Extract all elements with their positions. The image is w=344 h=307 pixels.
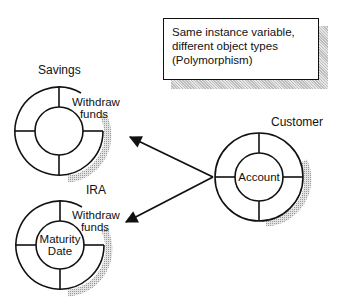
method-line: funds <box>72 221 118 233</box>
customer-title: Customer <box>271 116 323 128</box>
diagram-canvas <box>0 0 344 307</box>
customer-core-label: Account <box>235 171 283 183</box>
method-line: funds <box>72 108 116 120</box>
savings-title: Savings <box>38 64 81 76</box>
ira-title: IRA <box>86 184 106 196</box>
arrow-to-savings <box>130 137 213 177</box>
savings-method-label: Withdraw funds <box>72 96 116 120</box>
method-line: Withdraw <box>72 96 116 108</box>
arrow-to-ira <box>126 177 213 222</box>
method-line: Withdraw <box>72 209 118 221</box>
ira-core-label: Maturity Date <box>36 233 84 257</box>
core-line: Maturity <box>36 233 84 245</box>
core-line: Date <box>36 245 84 257</box>
ira-method-label: Withdraw funds <box>72 209 118 233</box>
